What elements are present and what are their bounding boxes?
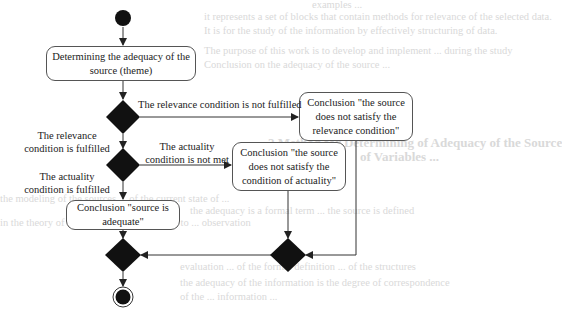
guard-line: condition is not met [144,153,230,166]
guard-line: The relevance [22,129,112,142]
merge-left-diamond [105,238,141,272]
conclusion-not-relevant: Conclusion "the source does not satisfy … [299,92,413,141]
guard-line: The actuality [22,170,112,183]
conclusion-adequate: Conclusion "source is adequate" [66,200,180,230]
action-label: Determining the adequacy of the source (… [51,50,191,78]
guard-actuality-fulfilled: The actuality condition is fulfilled [22,170,112,196]
action-label: Conclusion "the source does not satisfy … [304,96,408,138]
guard-line: condition is fulfilled [22,142,112,155]
action-label: Conclusion "the source does not satisfy … [237,146,341,188]
guard-relevance-fulfilled: The relevance condition is fulfilled [22,129,112,155]
guard-line: The actuality [144,140,230,153]
guard-line: condition is fulfilled [22,183,112,196]
guard-relevance-not-fulfilled: The relevance condition is not fulfilled [138,98,302,111]
guard-actuality-not-met: The actuality condition is not met [144,140,230,166]
merge-right-diamond [270,238,306,272]
action-determine-adequacy: Determining the adequacy of the source (… [46,46,196,81]
action-label: Conclusion "source is adequate" [71,201,175,229]
conclusion-not-actual: Conclusion "the source does not satisfy … [232,142,346,191]
initial-node-icon [115,10,131,26]
